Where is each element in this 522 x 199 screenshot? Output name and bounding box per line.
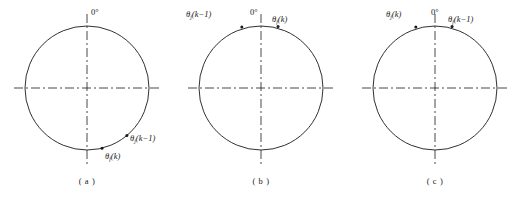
label-theta-j-k: θj(k)	[386, 10, 401, 19]
panel-c: 0° θj(k) θf(k−1) ( c )	[348, 0, 522, 199]
point-theta-f-k	[100, 147, 103, 150]
panel-a-caption: ( a )	[0, 176, 174, 186]
label-theta-j-k-1: θj(k−1)	[186, 10, 211, 19]
theta-subscript: j	[134, 138, 136, 144]
point-theta-f-k	[277, 25, 280, 28]
theta-arg: (k)	[278, 14, 287, 24]
zero-degree-label: 0°	[91, 8, 99, 17]
theta-arg: (k−1)	[136, 133, 155, 143]
theta-subscript: j	[190, 14, 192, 20]
theta-arg: (k)	[111, 151, 120, 161]
panel-a-graphic	[0, 0, 174, 199]
panel-c-caption: ( c )	[348, 176, 522, 186]
theta-subscript: f	[276, 19, 278, 25]
zero-degree-label: 0°	[250, 8, 258, 17]
label-theta-f-k: θf(k)	[272, 15, 287, 24]
point-theta-j-k-1	[240, 26, 243, 29]
panel-b-caption: ( b )	[174, 176, 348, 186]
label-theta-f-k: θf(k)	[105, 152, 120, 161]
theta-arg: (k−1)	[192, 9, 211, 19]
zero-degree-label: 0°	[431, 8, 439, 17]
label-theta-j-k-1: θj(k−1)	[130, 134, 155, 143]
theta-subscript: j	[390, 14, 392, 20]
panel-c-graphic	[348, 0, 522, 199]
point-theta-j-k	[414, 26, 417, 29]
panel-b-graphic	[174, 0, 348, 199]
theta-subscript: f	[452, 19, 454, 25]
panel-a: 0° θj(k−1) θf(k) ( a )	[0, 0, 174, 199]
label-theta-f-k-1: θf(k−1)	[448, 15, 473, 24]
theta-subscript: f	[109, 156, 111, 162]
figure-three-circles: 0° θj(k−1) θf(k) ( a ) 0° θj(k−1) θf(k) …	[0, 0, 522, 199]
panel-b: 0° θj(k−1) θf(k) ( b )	[174, 0, 348, 199]
point-theta-j-k-1	[125, 134, 128, 137]
theta-arg: (k−1)	[454, 14, 473, 24]
theta-arg: (k)	[392, 9, 401, 19]
point-theta-f-k-1	[451, 25, 454, 28]
